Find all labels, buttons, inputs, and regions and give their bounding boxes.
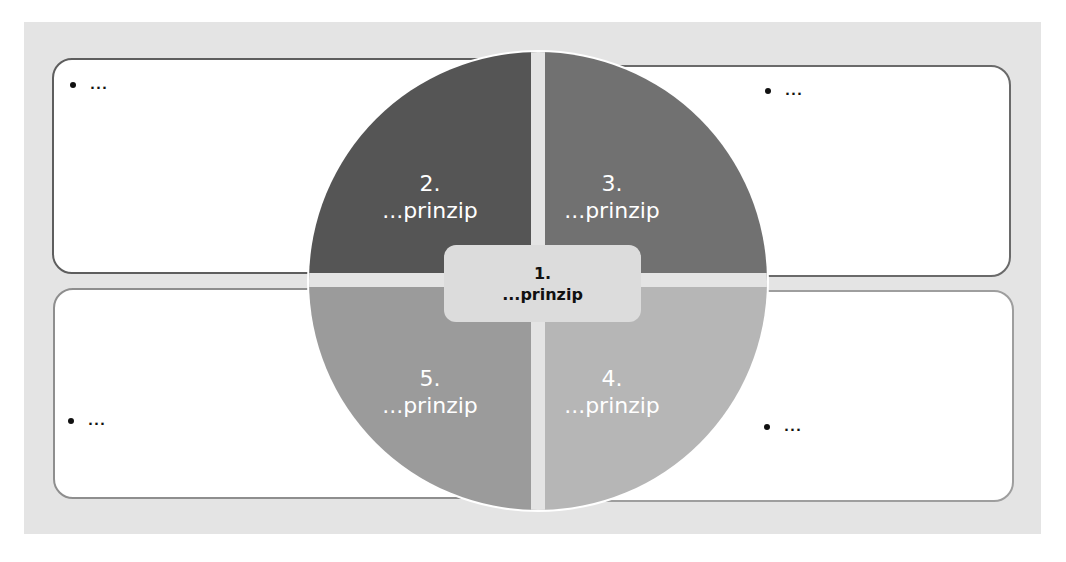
quadrant-text: ...prinzip	[340, 197, 520, 224]
quadrant-number: 3.	[522, 170, 702, 197]
quadrant-5-label: 5. ...prinzip	[340, 365, 520, 419]
quadrant-number: 2.	[340, 170, 520, 197]
quadrant-2-label: 2. ...prinzip	[340, 170, 520, 224]
center-text: ...prinzip	[444, 284, 641, 305]
center-number: 1.	[444, 263, 641, 284]
quadrant-number: 5.	[340, 365, 520, 392]
quadrant-text: ...prinzip	[522, 392, 702, 419]
quadrant-3-label: 3. ...prinzip	[522, 170, 702, 224]
center-principle-box: 1. ...prinzip	[444, 245, 641, 322]
quadrant-4-label: 4. ...prinzip	[522, 365, 702, 419]
quadrant-text: ...prinzip	[340, 392, 520, 419]
quadrant-number: 4.	[522, 365, 702, 392]
quadrant-text: ...prinzip	[522, 197, 702, 224]
